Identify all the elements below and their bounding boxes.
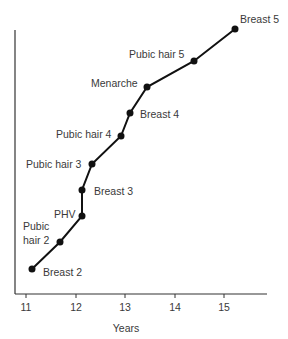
label-breast-5: Breast 5 bbox=[240, 13, 279, 25]
chart: 11 12 13 14 15 Years Breast 2 Pubic hair… bbox=[0, 0, 288, 339]
label-pubic-hair-2-line2: hair 2 bbox=[23, 234, 49, 246]
point-breast-3 bbox=[79, 187, 86, 194]
label-pubic-hair-2-line1: Pubic bbox=[23, 220, 49, 232]
point-pubic-hair-4 bbox=[118, 133, 125, 140]
label-pubic-hair-5: Pubic hair 5 bbox=[129, 48, 185, 60]
point-pubic-hair-2 bbox=[57, 239, 64, 246]
label-breast-3: Breast 3 bbox=[94, 185, 133, 197]
x-tick-label: 12 bbox=[70, 301, 82, 313]
point-pubic-hair-5 bbox=[191, 58, 198, 65]
x-tick-label: 13 bbox=[119, 301, 131, 313]
point-breast-5 bbox=[232, 26, 239, 33]
x-tick-label: 14 bbox=[169, 301, 181, 313]
x-axis-title: Years bbox=[113, 322, 139, 334]
x-tick-label: 15 bbox=[218, 301, 230, 313]
point-menarche bbox=[144, 84, 151, 91]
label-breast-2: Breast 2 bbox=[43, 266, 82, 278]
label-phv: PHV bbox=[54, 208, 76, 220]
point-pubic-hair-3 bbox=[89, 161, 96, 168]
point-breast-2 bbox=[29, 266, 36, 273]
label-menarche: Menarche bbox=[91, 77, 138, 89]
point-phv bbox=[79, 213, 86, 220]
point-breast-4 bbox=[127, 110, 134, 117]
label-pubic-hair-3: Pubic hair 3 bbox=[26, 158, 82, 170]
x-tick-label: 11 bbox=[21, 301, 32, 313]
label-pubic-hair-4: Pubic hair 4 bbox=[56, 128, 112, 140]
series-line bbox=[32, 29, 235, 269]
data-points bbox=[29, 26, 239, 273]
label-breast-4: Breast 4 bbox=[140, 108, 179, 120]
